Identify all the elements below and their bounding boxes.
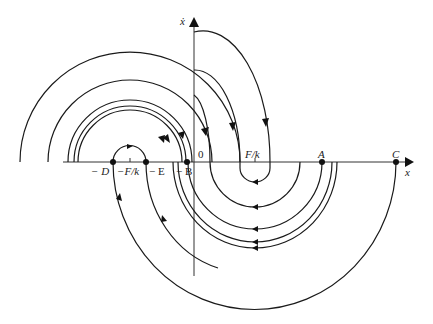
- point-a-label: A: [317, 148, 325, 160]
- neg-f-over-k-label: −F/k: [117, 165, 140, 177]
- arrow-icon: [252, 239, 258, 245]
- arrow-icon: [161, 215, 167, 222]
- arrow-icon: [252, 245, 258, 251]
- upper-right-trajectories: [194, 31, 270, 162]
- point-neg-b-label: − B: [176, 165, 192, 177]
- f-over-k-label: F/k: [244, 148, 261, 160]
- arrow-icon: [127, 144, 133, 149]
- origin-label: 0: [198, 148, 204, 160]
- arrow-icon: [252, 226, 258, 232]
- x-axis-label: x: [404, 166, 410, 178]
- arrow-icon: [158, 135, 165, 143]
- phase-plane-figure: ẋ x 0 F/k A C − D −F/k − E − B: [0, 0, 433, 324]
- point-neg-d-label: − D: [91, 165, 109, 177]
- point-c-label: C: [392, 148, 400, 160]
- xdot-axis-arrow-icon: [189, 17, 199, 27]
- arrow-icon: [252, 179, 258, 185]
- phase-plane-svg: ẋ x 0 F/k A C − D −F/k − E − B: [0, 0, 433, 324]
- point-neg-e-label: − E: [149, 165, 165, 177]
- xdot-axis-label: ẋ: [179, 15, 185, 27]
- lower-trajectories: [113, 162, 396, 310]
- arrow-icon: [252, 204, 258, 210]
- upper-trajectories: [20, 52, 240, 162]
- point-neg-d: [110, 159, 116, 165]
